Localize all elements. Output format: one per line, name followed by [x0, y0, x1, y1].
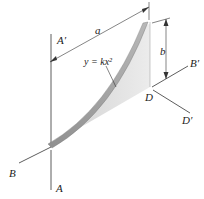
figure: A′ A B B′ D D′ a b y = kx²: [0, 0, 204, 199]
label-a: A: [55, 182, 63, 194]
axis-bb-prime: [19, 147, 51, 163]
axis-dd-prime: [153, 90, 190, 113]
label-d: D: [144, 91, 153, 103]
label-a-prime: A′: [56, 34, 67, 46]
dimension-b-arrow-top: [164, 19, 169, 26]
axis-bb-prime-upper: [152, 66, 188, 87]
label-b: B: [9, 167, 16, 179]
label-d-prime: D′: [181, 114, 193, 126]
dimension-a-arrow-right: [142, 7, 149, 13]
extension-line-b-top: [152, 18, 170, 23]
curve-equation: y = kx²: [83, 56, 113, 67]
label-dimension-a: a: [95, 24, 101, 36]
label-dimension-b: b: [160, 45, 166, 57]
label-b-prime: B′: [190, 57, 200, 69]
